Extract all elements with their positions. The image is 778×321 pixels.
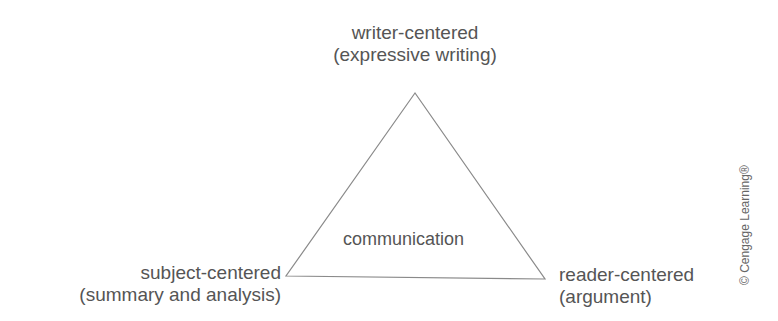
writer-title: writer-centered (300, 22, 530, 44)
vertex-label-subject: subject-centered (summary and analysis) (79, 262, 281, 306)
subject-subtitle: (summary and analysis) (79, 284, 281, 306)
copyright-notice: © Cengage Learning® (738, 165, 752, 285)
subject-title: subject-centered (79, 262, 281, 284)
reader-subtitle: (argument) (559, 286, 694, 308)
reader-title: reader-centered (559, 264, 694, 286)
vertex-label-reader: reader-centered (argument) (559, 264, 694, 308)
writer-subtitle: (expressive writing) (300, 44, 530, 66)
center-label: communication (343, 229, 464, 250)
vertex-label-writer: writer-centered (expressive writing) (300, 22, 530, 66)
